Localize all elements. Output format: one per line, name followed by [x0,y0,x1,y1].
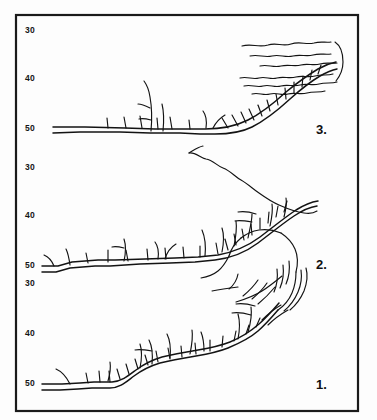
axis-label-50-panel-2: 50 [25,260,35,270]
axis-label-40-panel-2: 40 [25,210,35,220]
figure-root: 3. 30 40 50 [0,0,377,420]
figure-canvas: 3. 30 40 50 [0,0,377,420]
axis-label-50-panel-3: 50 [25,123,35,133]
axis-label-50-panel-1: 50 [25,378,35,388]
axis-label-30-panel-3: 30 [25,25,35,35]
axis-label-30-panel-2: 30 [25,162,35,172]
panel-label-1: 1. [316,377,327,392]
axis-label-30-panel-1: 30 [25,278,35,288]
axis-label-40-panel-3: 40 [25,73,35,83]
axis-label-40-panel-1: 40 [25,328,35,338]
panel-label-2: 2. [316,257,327,272]
panel-label-3: 3. [316,122,327,137]
